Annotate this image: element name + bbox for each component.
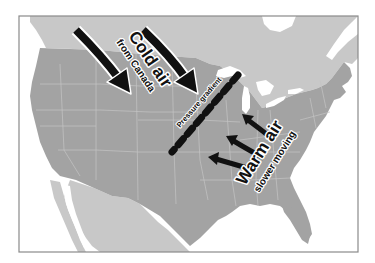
weather-map: Cold air from Canada Pressure gradient W… [0,0,375,263]
map-canvas: Cold air from Canada Pressure gradient W… [0,0,375,263]
